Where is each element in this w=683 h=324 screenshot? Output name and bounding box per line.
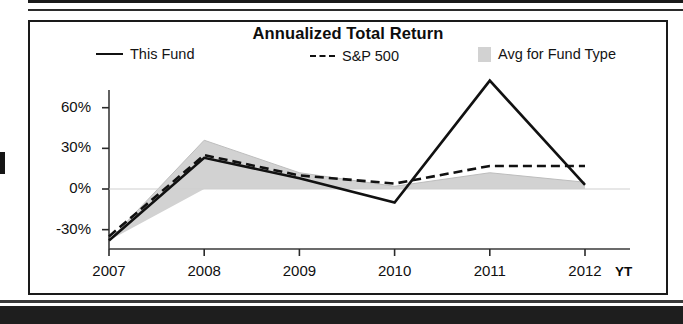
scan-rule-top-primary — [28, 0, 683, 3]
scan-rule-top-secondary — [28, 9, 683, 11]
line-series-layer — [109, 81, 585, 241]
x-axis-unit-suffix: YT — [615, 264, 632, 279]
y-axis-tick-label: -30% — [29, 220, 91, 237]
scan-edge-mark-left — [0, 152, 5, 174]
scan-rule-bottom — [0, 300, 683, 303]
plot-area — [30, 22, 670, 297]
scan-band-bottom — [0, 306, 683, 324]
y-axis-tick-label: 30% — [29, 138, 91, 155]
y-axis-tick-label: 0% — [29, 179, 91, 196]
x-axis-tick-label: 2009 — [267, 262, 331, 279]
y-axis-tick-label: 60% — [29, 98, 91, 115]
chart-panel: Annualized Total Return This Fund S&P 50… — [28, 20, 668, 295]
chart-plot-svg — [30, 22, 670, 297]
x-axis-tick-label: 2007 — [77, 262, 141, 279]
x-axis-tick-label: 2011 — [458, 262, 522, 279]
x-axis-tick-label: 2010 — [363, 262, 427, 279]
x-axis-tick-label: 2012 — [553, 262, 617, 279]
x-axis-tick-label: 2008 — [172, 262, 236, 279]
